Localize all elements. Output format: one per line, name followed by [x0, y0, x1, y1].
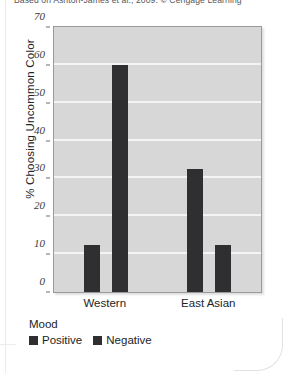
bar-chart: 010203040506070 % Choosing Uncommon Colo…	[0, 0, 285, 373]
legend-label: Positive	[42, 334, 82, 346]
y-axis-tick-label: 10	[34, 237, 45, 249]
plot-area	[53, 26, 262, 293]
y-axis-title: % Choosing Uncommon Color	[24, 4, 36, 234]
legend: Mood PositiveNegative	[29, 318, 259, 346]
y-axis-tick-mark	[46, 254, 50, 255]
y-axis-tick-label: 0	[40, 275, 46, 287]
y-axis-tick-mark	[46, 292, 50, 293]
legend-item: Negative	[93, 334, 151, 346]
legend-label: Negative	[106, 334, 151, 346]
legend-swatch	[29, 336, 38, 345]
scanned-page: Based on Ashton-James et al., 2009. © Ce…	[0, 0, 285, 373]
y-axis-tick-mark	[46, 140, 50, 141]
legend-items: PositiveNegative	[29, 334, 259, 346]
y-axis-tick-mark	[46, 102, 50, 103]
legend-item: Positive	[29, 334, 82, 346]
bar	[215, 245, 231, 292]
legend-title: Mood	[29, 318, 259, 330]
x-axis-tick-label: Western	[83, 297, 126, 309]
bar	[187, 169, 203, 292]
x-axis-labels: WesternEast Asian	[53, 297, 262, 313]
x-axis-tick-label: East Asian	[181, 297, 235, 309]
bar	[84, 245, 100, 292]
y-axis-tick-mark	[46, 216, 50, 217]
bar-series-group	[54, 27, 261, 292]
y-axis-tick-mark	[46, 64, 50, 65]
bar	[112, 65, 128, 292]
legend-swatch	[93, 336, 102, 345]
y-axis-tick-mark	[46, 178, 50, 179]
y-axis-tick-mark	[46, 27, 50, 28]
